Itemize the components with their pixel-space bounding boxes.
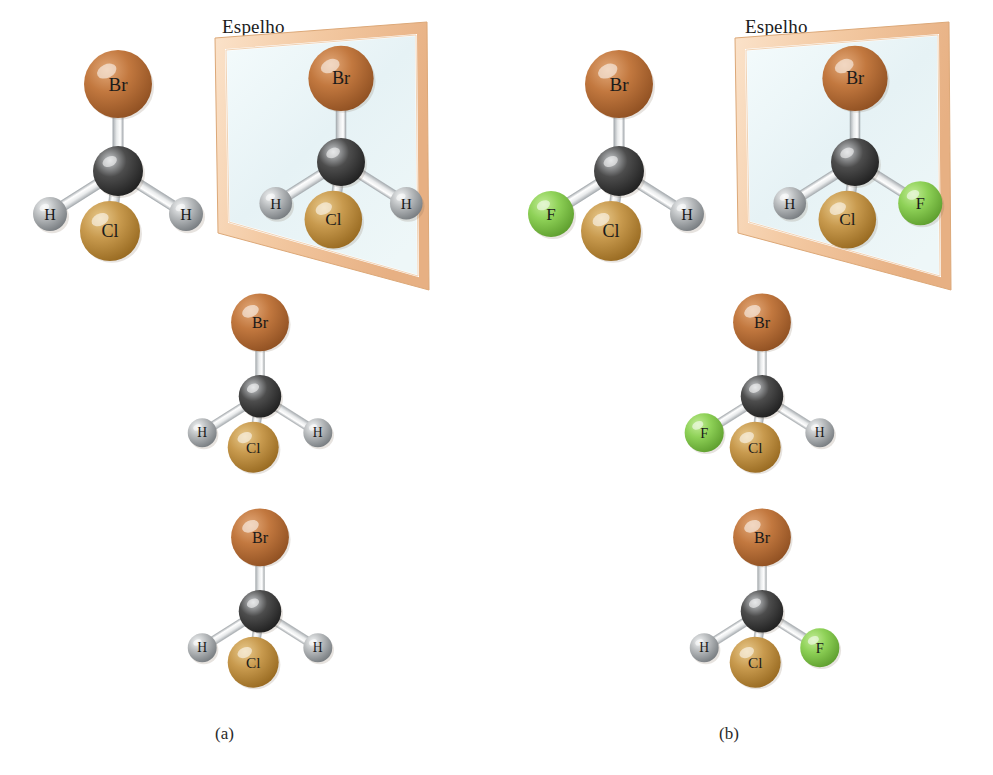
atom-label-Cl: Cl <box>839 210 856 229</box>
atom-label-F: F <box>546 205 555 224</box>
atom-Cl: Cl <box>228 637 281 690</box>
atom-Br: Br <box>822 46 889 113</box>
atom-label-F: F <box>816 640 824 656</box>
atom-Br: Br <box>308 46 375 113</box>
caption-a: (a) <box>215 724 234 744</box>
molecule-a-reflection: Br H H <box>245 42 437 248</box>
atom-C <box>239 375 283 419</box>
atom-C <box>741 375 785 419</box>
molecule-b-bottom: Br H F <box>677 505 847 688</box>
atom-C <box>594 146 646 198</box>
atom-Br: Br <box>84 50 154 120</box>
atom-label-Br: Br <box>754 314 771 331</box>
atom-Br: Br <box>231 293 291 352</box>
atom-label-Br: Br <box>252 529 269 546</box>
atom-label-Br: Br <box>252 314 269 331</box>
molecule-a-middle: Br H H <box>175 290 345 473</box>
atom-label-H: H <box>197 425 207 440</box>
atom-Cl: Cl <box>228 422 281 475</box>
panel-b: Espelho <box>497 0 993 775</box>
atom-label-H: H <box>313 640 323 655</box>
atom-Cl: Cl <box>581 201 643 263</box>
atom-label-F: F <box>700 425 708 441</box>
atom-Cl: Cl <box>80 201 142 263</box>
atom-H: H <box>169 197 205 233</box>
molecule-b-reflection: Br H F <box>759 42 951 248</box>
atom-C <box>741 590 785 634</box>
atom-label-Cl: Cl <box>246 654 260 671</box>
atom-label-Br: Br <box>109 74 129 95</box>
atom-Br: Br <box>231 508 291 567</box>
atom-Cl: Cl <box>305 191 365 250</box>
caption-b: (b) <box>719 724 739 744</box>
atom-H: H <box>303 418 334 449</box>
atom-label-H: H <box>784 195 795 212</box>
atom-label-Br: Br <box>846 68 864 88</box>
atom-label-F: F <box>916 194 925 213</box>
atom-Br: Br <box>585 50 655 120</box>
atom-label-Cl: Cl <box>602 221 619 241</box>
atom-Br: Br <box>733 508 793 567</box>
atom-label-H: H <box>401 195 412 212</box>
atom-C <box>239 590 283 634</box>
molecule-b-middle: Br F H <box>677 290 847 473</box>
molecule-b-original: Br F H <box>519 46 719 261</box>
atom-C <box>93 146 145 198</box>
atom-label-H: H <box>699 640 709 655</box>
atom-F: F <box>898 181 944 227</box>
atom-label-H: H <box>681 206 693 223</box>
molecule-a-bottom: Br H H <box>175 505 345 688</box>
atom-label-H: H <box>815 425 825 440</box>
atom-label-Br: Br <box>610 74 630 95</box>
panel-a: Espelho <box>0 0 496 775</box>
atom-label-Cl: Cl <box>748 654 762 671</box>
atom-label-H: H <box>197 640 207 655</box>
atom-label-Cl: Cl <box>101 221 118 241</box>
atom-label-Cl: Cl <box>748 439 762 456</box>
atom-label-H: H <box>180 206 192 223</box>
atom-label-Br: Br <box>754 529 771 546</box>
atom-C <box>317 138 367 188</box>
atom-H: H <box>670 197 706 233</box>
atom-label-Cl: Cl <box>325 210 342 229</box>
atom-Cl: Cl <box>819 191 879 250</box>
atom-C <box>831 138 881 188</box>
atom-label-Br: Br <box>332 68 350 88</box>
atom-Cl: Cl <box>730 422 783 475</box>
molecule-a-original: Br H H <box>18 46 218 261</box>
atom-H: H <box>303 633 334 664</box>
atom-F: F <box>800 628 841 669</box>
atom-Br: Br <box>733 293 793 352</box>
chirality-figure: Espelho <box>0 0 993 775</box>
atom-Cl: Cl <box>730 637 783 690</box>
atom-H: H <box>805 418 836 449</box>
atom-label-Cl: Cl <box>246 439 260 456</box>
atom-label-H: H <box>313 425 323 440</box>
atom-H: H <box>390 187 425 222</box>
atom-label-H: H <box>44 206 56 223</box>
atom-label-H: H <box>270 195 281 212</box>
